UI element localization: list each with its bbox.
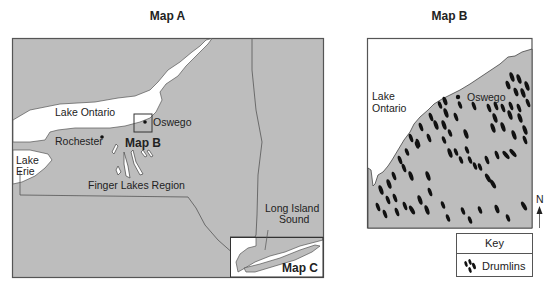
drumlin-icon [463, 258, 477, 274]
label-lake-erie-2: Erie [16, 165, 35, 177]
label-finger-lakes: Finger Lakes Region [88, 179, 185, 191]
label-map-c-inset: Map C [282, 261, 318, 275]
map-b: Lake Ontario Oswego N [368, 39, 544, 229]
map-key: Key Drumlins [456, 233, 533, 277]
key-title: Key [457, 234, 532, 254]
key-item-drumlins: Drumlins [457, 254, 532, 278]
label-oswego-b: Oswego [467, 91, 506, 103]
label-rochester: Rochester [55, 135, 103, 147]
key-item-label: Drumlins [482, 260, 525, 272]
oswego-dot [143, 120, 147, 124]
label-lake: Lake [372, 90, 395, 102]
label-oswego: Oswego [153, 116, 192, 128]
oswego-dot [456, 95, 460, 99]
label-long-island-2: Sound [279, 213, 310, 225]
svg-text:N: N [536, 193, 544, 205]
north-arrow-icon: N [536, 193, 544, 228]
label-map-b-inset: Map B [125, 136, 161, 150]
map-a: Lake Ontario Oswego Rochester Map B Lake… [13, 39, 324, 278]
label-lake-ontario: Lake Ontario [55, 106, 115, 118]
label-ontario: Ontario [372, 102, 407, 114]
